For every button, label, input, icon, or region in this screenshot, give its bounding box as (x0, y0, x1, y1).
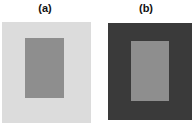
panel-b-label: (b) (131, 2, 161, 14)
panel-a-label: (a) (30, 2, 60, 14)
panel-b-center-square (131, 41, 169, 101)
panel-a-center-square (25, 38, 64, 98)
